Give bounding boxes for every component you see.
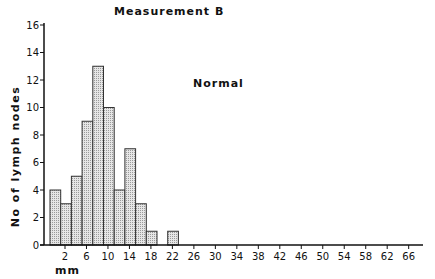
x-tick-label: 54 (338, 251, 351, 262)
x-tick-label: 2 (62, 251, 68, 262)
y-tick-label: 0 (33, 240, 39, 251)
histogram-bar (71, 176, 82, 245)
histogram-bar (82, 121, 93, 245)
histogram-bar (168, 231, 179, 245)
x-tick-label: 18 (145, 251, 158, 262)
x-tick-label: 6 (83, 251, 89, 262)
x-tick-label: 10 (102, 251, 115, 262)
y-tick-label: 16 (26, 20, 39, 31)
x-tick-label: 22 (166, 251, 179, 262)
y-tick-label: 4 (33, 185, 39, 196)
y-tick-label: 2 (33, 212, 39, 223)
x-tick-label: 46 (295, 251, 308, 262)
histogram-bar (125, 149, 136, 245)
histogram-bar (93, 66, 104, 245)
y-tick-label: 6 (33, 157, 39, 168)
histogram-plot: 0246810121416261014182226303438424650545… (0, 0, 435, 279)
y-tick-label: 8 (33, 130, 39, 141)
y-tick-label: 12 (26, 75, 39, 86)
histogram-bar (104, 108, 115, 246)
x-tick-label: 42 (273, 251, 286, 262)
x-tick-label: 30 (209, 251, 222, 262)
x-tick-label: 34 (230, 251, 243, 262)
histogram-bar (50, 190, 61, 245)
x-tick-label: 50 (316, 251, 329, 262)
histogram-bar (61, 204, 72, 245)
histogram-bar (114, 190, 125, 245)
y-tick-label: 14 (26, 47, 39, 58)
histogram-bar (136, 204, 147, 245)
x-tick-label: 14 (123, 251, 136, 262)
y-tick-label: 10 (26, 102, 39, 113)
x-tick-label: 26 (188, 251, 201, 262)
x-tick-label: 38 (252, 251, 265, 262)
bars-group (50, 66, 178, 245)
histogram-bar (146, 231, 157, 245)
x-tick-label: 66 (402, 251, 415, 262)
x-tick-label: 62 (381, 251, 394, 262)
x-tick-label: 58 (359, 251, 372, 262)
